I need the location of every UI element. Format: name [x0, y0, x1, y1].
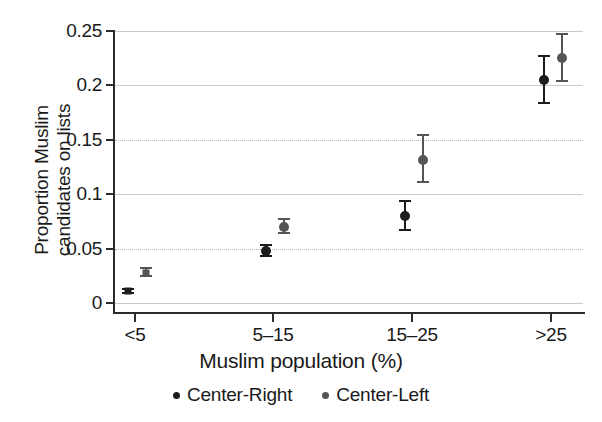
legend-label: Center-Right: [187, 384, 292, 406]
gridline: [115, 85, 583, 86]
y-axis-tick-label: 0.1: [48, 183, 102, 205]
legend-marker-icon: [322, 392, 329, 399]
chart-figure: Proportion Muslim candidates on lists 00…: [0, 0, 602, 422]
x-axis-tick-label: 15–25: [386, 324, 437, 346]
error-bar-cap-bottom: [417, 181, 429, 183]
gridline: [115, 303, 583, 304]
error-bar-cap-top: [417, 134, 429, 136]
y-axis-tick-mark: [106, 30, 115, 32]
error-bar-cap-bottom: [278, 232, 290, 234]
data-point: [125, 288, 132, 295]
plot-inner: [115, 31, 583, 303]
plot-area: [113, 31, 583, 303]
data-point: [539, 75, 549, 85]
x-axis-tick-label: <5: [124, 324, 145, 346]
x-axis-tick-mark: [550, 313, 552, 322]
gridline: [115, 140, 583, 141]
y-axis-tick-label: 0.15: [48, 129, 102, 151]
gridline: [115, 31, 583, 32]
y-axis-tick-mark: [106, 139, 115, 141]
y-axis-tick-label: 0.2: [48, 74, 102, 96]
y-axis-tick-mark: [106, 248, 115, 250]
gridline: [115, 249, 583, 250]
x-axis-title: Muslim population (%): [0, 349, 602, 373]
data-point: [261, 246, 271, 256]
error-bar-cap-top: [399, 200, 411, 202]
x-axis-tick-mark: [134, 313, 136, 322]
x-axis-tick-mark: [272, 313, 274, 322]
error-bar-cap-bottom: [399, 229, 411, 231]
legend-item: Center-Left: [322, 384, 429, 406]
y-axis-tick-mark: [106, 193, 115, 195]
y-axis-tick-label: 0: [48, 292, 102, 314]
x-axis-tick-label: 5–15: [252, 324, 293, 346]
error-bar-cap-bottom: [556, 80, 568, 82]
gridline: [115, 194, 583, 195]
y-axis-tick-label: 0.05: [48, 238, 102, 260]
data-point: [279, 222, 289, 232]
error-bar-cap-bottom: [538, 102, 550, 104]
y-axis-tick-mark: [106, 84, 115, 86]
x-axis-tick-label: >25: [535, 324, 566, 346]
data-point: [400, 211, 410, 221]
data-point: [143, 269, 150, 276]
data-point: [557, 53, 567, 63]
y-axis-tick-label: 0.25: [48, 20, 102, 42]
data-point: [418, 155, 428, 165]
error-bar-cap-top: [278, 218, 290, 220]
chart-legend: Center-RightCenter-Left: [0, 384, 602, 406]
legend-marker-icon: [173, 392, 180, 399]
legend-item: Center-Right: [173, 384, 292, 406]
error-bar-cap-top: [556, 33, 568, 35]
legend-label: Center-Left: [336, 384, 429, 406]
x-axis-tick-mark: [411, 313, 413, 322]
error-bar-cap-top: [538, 55, 550, 57]
x-axis-line: [113, 312, 585, 314]
